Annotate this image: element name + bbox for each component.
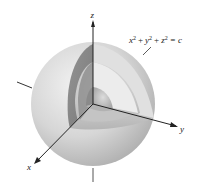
level-surfaces-diagram: z y x x2+y2+z2= c: [0, 0, 213, 194]
equation-label: x2+y2+z2= c: [128, 35, 182, 45]
x-axis-label: x: [26, 162, 31, 172]
x-axis-back: [17, 82, 32, 88]
y-axis-arrowhead: [170, 122, 178, 127]
z-axis-label: z: [90, 10, 95, 20]
equation-leader-line: [143, 47, 151, 55]
z-axis-arrowhead: [91, 20, 95, 27]
y-axis-label: y: [179, 124, 184, 134]
